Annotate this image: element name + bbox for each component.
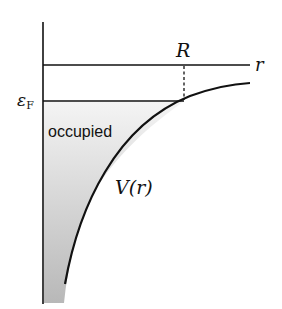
diagram-graphics <box>0 0 282 309</box>
fermi-epsilon: ε <box>17 90 26 110</box>
label-fermi-energy: εF <box>17 92 34 109</box>
label-r-axis: r <box>255 56 264 74</box>
label-occupied: occupied <box>48 124 112 140</box>
fermi-subscript: F <box>26 99 34 112</box>
label-potential: V(r) <box>115 178 153 197</box>
potential-well-diagram: R r εF occupied V(r) <box>0 0 282 309</box>
label-R: R <box>176 41 190 60</box>
